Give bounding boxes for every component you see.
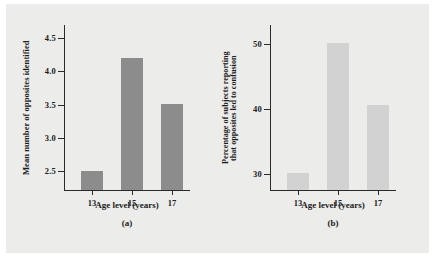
y-tick-mark-a-0 bbox=[58, 171, 65, 172]
y-tick-mark-b-2 bbox=[264, 44, 271, 45]
x-tick-mark-a-0 bbox=[92, 190, 93, 195]
y-tick-label-a-3: 4.0 bbox=[45, 66, 56, 76]
y-tick-mark-a-4 bbox=[58, 38, 65, 39]
x-axis-title-b: Age level (years) bbox=[270, 200, 396, 210]
y-axis-title-b: Percentage of subjects reporting that op… bbox=[222, 18, 246, 198]
y-axis-line-b bbox=[270, 25, 271, 191]
y-tick-label-a-4: 4.5 bbox=[45, 33, 56, 43]
chart-panel-b: Percentage of subjects reporting that op… bbox=[212, 4, 423, 253]
y-axis-title-a: Mean number of opposites identified bbox=[22, 22, 32, 194]
bar-a-17 bbox=[161, 104, 183, 190]
bar-a-13 bbox=[81, 171, 103, 190]
plot-area-a: 2.5 3.0 3.5 4.0 4.5 bbox=[64, 25, 190, 191]
y-axis-title-b-line2: that opposites led to confusion bbox=[230, 18, 238, 198]
x-tick-mark-b-1 bbox=[338, 190, 339, 195]
y-tick-label-a-2: 3.5 bbox=[45, 100, 56, 110]
y-tick-label-b-0: 30 bbox=[253, 169, 262, 179]
y-tick-mark-a-3 bbox=[58, 71, 65, 72]
bar-a-15 bbox=[121, 58, 143, 190]
y-tick-label-a-1: 3.0 bbox=[45, 133, 56, 143]
y-tick-label-b-1: 40 bbox=[253, 104, 262, 114]
bar-b-15 bbox=[327, 43, 349, 190]
x-tick-mark-b-0 bbox=[298, 190, 299, 195]
figure-container: Mean number of opposites identified 2.5 … bbox=[6, 4, 429, 253]
plot-area-b: 30 40 50 13 15 17 bbox=[270, 25, 396, 191]
panel-caption-a: (a) bbox=[64, 218, 190, 228]
bar-b-17 bbox=[367, 105, 389, 190]
y-tick-mark-a-1 bbox=[58, 138, 65, 139]
panel-caption-b: (b) bbox=[270, 218, 396, 228]
bar-b-13 bbox=[287, 173, 309, 190]
y-tick-mark-b-1 bbox=[264, 109, 271, 110]
y-axis-line-a bbox=[64, 25, 65, 191]
x-tick-mark-a-1 bbox=[132, 190, 133, 195]
x-axis-title-a: Age level (years) bbox=[64, 200, 190, 210]
x-tick-mark-b-2 bbox=[378, 190, 379, 195]
x-tick-mark-a-2 bbox=[172, 190, 173, 195]
y-tick-label-a-0: 2.5 bbox=[45, 166, 56, 176]
y-tick-mark-b-0 bbox=[264, 174, 271, 175]
y-tick-label-b-2: 50 bbox=[253, 39, 262, 49]
chart-panel-a: Mean number of opposites identified 2.5 … bbox=[6, 4, 217, 253]
y-tick-mark-a-2 bbox=[58, 105, 65, 106]
